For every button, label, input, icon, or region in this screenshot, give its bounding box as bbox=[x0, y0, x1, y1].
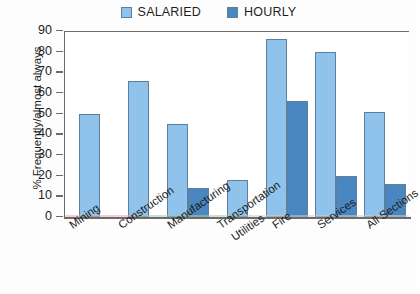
bar-hourly bbox=[287, 101, 308, 217]
y-axis-tick-label: 10 bbox=[20, 188, 52, 202]
y-axis-tick-mark bbox=[56, 92, 63, 93]
legend-swatch-hourly bbox=[227, 7, 238, 18]
bar-salaried bbox=[315, 52, 336, 217]
legend-label-salaried: SALARIED bbox=[138, 5, 201, 19]
y-axis-tick-label: 90 bbox=[20, 23, 52, 37]
legend-item-hourly: HOURLY bbox=[227, 5, 296, 19]
bar-salaried bbox=[364, 112, 385, 217]
bar-salaried bbox=[79, 114, 100, 217]
y-axis-tick-label: 30 bbox=[20, 147, 52, 161]
bar-salaried bbox=[128, 81, 149, 217]
y-axis-tick-mark bbox=[56, 71, 63, 72]
plot-area bbox=[64, 31, 409, 217]
y-axis-tick-mark bbox=[56, 154, 63, 155]
chart-legend: SALARIED HOURLY bbox=[0, 5, 417, 19]
y-axis-tick-mark bbox=[56, 195, 63, 196]
y-axis-tick-mark bbox=[56, 216, 63, 217]
legend-swatch-salaried bbox=[121, 7, 132, 18]
y-axis-tick-mark bbox=[56, 113, 63, 114]
y-axis-tick-label: 60 bbox=[20, 85, 52, 99]
y-axis-tick-label: 0 bbox=[20, 209, 52, 223]
y-axis-tick-label: 80 bbox=[20, 44, 52, 58]
bar-salaried bbox=[167, 124, 188, 217]
y-axis-tick-label: 20 bbox=[20, 168, 52, 182]
legend-label-hourly: HOURLY bbox=[244, 5, 296, 19]
y-axis-tick-label: 40 bbox=[20, 126, 52, 140]
y-axis-tick-mark bbox=[56, 30, 63, 31]
y-axis-tick-label: 70 bbox=[20, 64, 52, 78]
legend-item-salaried: SALARIED bbox=[121, 5, 201, 19]
y-axis-tick-mark bbox=[56, 133, 63, 134]
y-axis-tick-label: 50 bbox=[20, 106, 52, 120]
y-axis-tick-mark bbox=[56, 51, 63, 52]
y-axis-tick-mark bbox=[56, 175, 63, 176]
